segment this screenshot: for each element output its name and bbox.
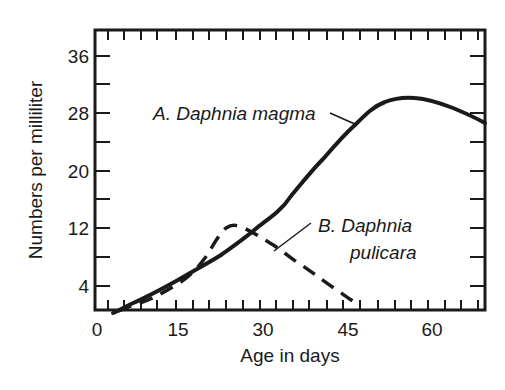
x-tick-labels: 0 15 30 45 60: [92, 319, 443, 340]
y-tick-labels: 36 28 20 12 4: [68, 46, 90, 297]
plot-frame: [95, 30, 485, 310]
x-axis-title: Age in days: [240, 345, 339, 366]
y-tick-28: 28: [68, 103, 89, 124]
y-axis-title: Numbers per milliliter: [25, 80, 46, 259]
x-tick-30: 30: [252, 319, 273, 340]
y-tick-20: 20: [68, 161, 89, 182]
annotation-b-line2: pulicara: [349, 242, 417, 263]
series-b-daphnia-pulicara-line: [118, 225, 360, 311]
y-tick-4: 4: [78, 276, 89, 297]
left-ticks: [95, 56, 110, 286]
y-tick-36: 36: [68, 46, 89, 67]
chart: 36 28 20 12 4 0 15 30 45 60 Age in days …: [0, 0, 505, 390]
right-ticks: [470, 56, 485, 286]
x-tick-15: 15: [167, 319, 188, 340]
y-tick-12: 12: [68, 218, 89, 239]
annotation-a: A. Daphnia magma: [152, 103, 316, 124]
annotation-b-leader: [274, 223, 311, 251]
annotation-a-leader: [330, 113, 357, 125]
x-tick-0: 0: [92, 319, 103, 340]
annotation-b-line1: B. Daphnia: [318, 215, 412, 236]
series-a-daphnia-magma-line: [113, 98, 485, 313]
x-tick-45: 45: [337, 319, 358, 340]
x-tick-60: 60: [421, 319, 442, 340]
